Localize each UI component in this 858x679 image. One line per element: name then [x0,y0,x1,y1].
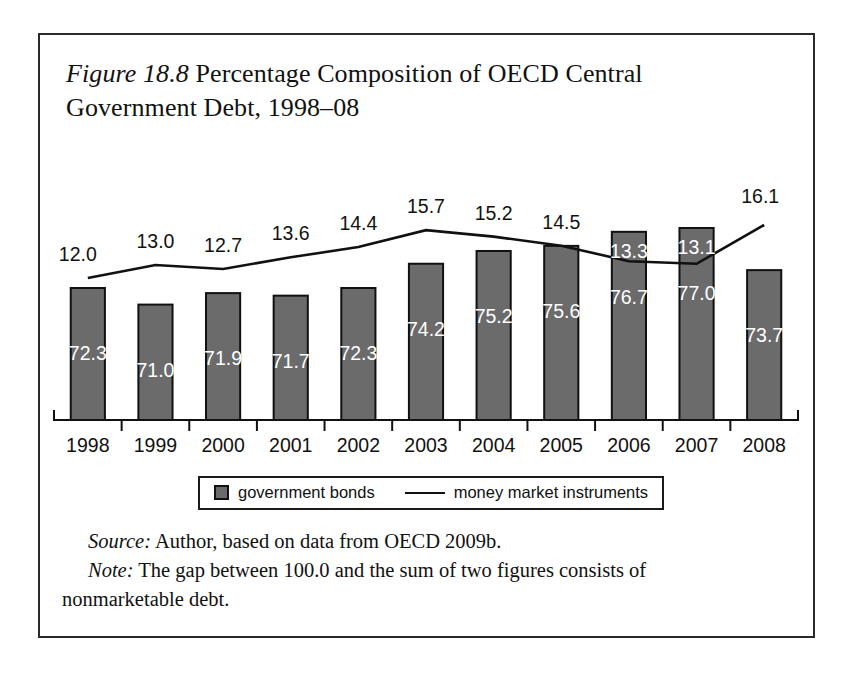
line-value-label-1999: 13.0 [136,230,174,252]
legend-item-government-bonds: government bonds [214,483,375,502]
line-value-label-2008: 16.1 [741,185,779,207]
bar-value-label-2007: 77.0 [678,282,716,304]
line-value-label-2000: 12.7 [204,234,242,256]
bar-2003 [409,264,443,420]
legend-swatch-line-icon [405,492,445,494]
legend-swatch-bar-icon [214,485,229,500]
bar-value-label-1998: 72.3 [69,342,107,364]
x-axis-label-2006: 2006 [607,434,650,456]
x-axis-label-2005: 2005 [540,434,584,456]
figure-note-line-cont: nonmarketable debt. [62,585,782,614]
x-axis-label-2003: 2003 [404,434,447,456]
bar-2005 [544,246,578,420]
line-value-label-2006: 13.3 [610,240,648,262]
figure-notes: Source: Author, based on data from OECD … [62,527,782,614]
figure-frame: Figure 18.8 Percentage Composition of OE… [38,33,815,638]
source-text: Author, based on data from OECD 2009b. [151,530,501,552]
x-axis-label-1999: 1999 [134,434,177,456]
line-value-label-2003: 15.7 [407,195,445,217]
x-axis-label-2001: 2001 [269,434,312,456]
x-axis-label-2008: 2008 [742,434,785,456]
line-value-label-1998: 12.0 [59,243,97,265]
chart-legend: government bonds money market instrument… [198,476,664,510]
figure-source-line: Source: Author, based on data from OECD … [62,527,782,556]
line-value-label-2004: 15.2 [475,202,513,224]
bar-value-label-2001: 71.7 [272,350,310,372]
line-value-label-2002: 14.4 [339,212,377,234]
bar-2004 [477,251,511,420]
line-value-label-2001: 13.6 [272,222,310,244]
x-axis-label-2004: 2004 [472,434,516,456]
bar-value-label-2003: 74.2 [407,318,445,340]
line-value-labels-group: 12.013.012.713.614.415.715.214.513.313.1… [59,185,779,265]
note-text: The gap between 100.0 and the sum of two… [134,559,647,581]
note-label: Note: [88,559,134,581]
x-axis-label-2007: 2007 [675,434,718,456]
legend-label-money-market-instruments: money market instruments [454,483,648,502]
bar-value-label-2002: 72.3 [339,342,377,364]
source-label: Source: [88,530,151,552]
bar-value-label-2005: 75.6 [542,300,580,322]
x-axis-label-1998: 1998 [66,434,109,456]
bar-value-label-2006: 76.7 [610,286,648,308]
line-value-label-2007: 13.1 [678,236,716,258]
x-axis-tick-labels-group: 1998199920002001200220032004200520062007… [66,434,786,456]
figure-note-line: Note: The gap between 100.0 and the sum … [62,556,782,585]
x-axis-label-2002: 2002 [337,434,380,456]
bar-value-label-2004: 75.2 [475,305,513,327]
bar-value-label-1999: 71.0 [136,359,174,381]
legend-item-money-market-instruments: money market instruments [405,483,648,502]
bar-value-label-2008: 73.7 [745,324,783,346]
bar-value-label-2000: 71.9 [204,347,242,369]
x-axis-label-2000: 2000 [201,434,245,456]
line-value-label-2005: 14.5 [542,211,580,233]
legend-label-government-bonds: government bonds [238,483,375,502]
